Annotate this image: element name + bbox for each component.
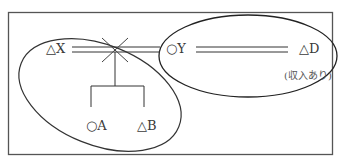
person-x-label: △X	[46, 42, 65, 56]
family-diagram	[0, 0, 342, 165]
household-left-ellipse	[2, 17, 197, 165]
person-d-income-note: (収入あり)	[284, 70, 332, 82]
person-b-label: △B	[137, 119, 157, 133]
person-a-label: ○A	[86, 119, 107, 133]
person-d-label: △D	[299, 42, 319, 56]
person-y-label: ○Y	[166, 42, 186, 56]
household-right-ellipse	[159, 15, 337, 97]
diagram-frame	[9, 13, 333, 155]
